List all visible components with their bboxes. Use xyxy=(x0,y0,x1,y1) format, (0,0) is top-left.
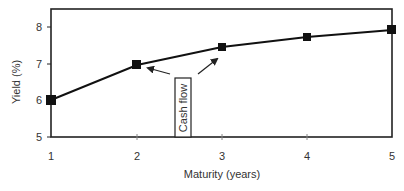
data-point xyxy=(132,60,141,69)
data-point xyxy=(303,33,311,41)
cash-flow-annotation: Cash flow xyxy=(148,59,217,137)
y-tick-label: 6 xyxy=(36,94,42,106)
data-point xyxy=(46,95,56,105)
x-tick-label: 2 xyxy=(134,150,140,162)
y-tick-label: 8 xyxy=(36,21,42,33)
plot-area xyxy=(51,9,392,137)
series-line xyxy=(51,30,392,100)
x-axis-label: Maturity (years) xyxy=(184,168,260,180)
x-tick-label: 5 xyxy=(389,150,395,162)
x-tick-label: 3 xyxy=(219,150,225,162)
cash-flow-label: Cash flow xyxy=(177,84,189,132)
y-tick-label: 7 xyxy=(36,58,42,70)
x-tick-label: 4 xyxy=(304,150,310,162)
data-point xyxy=(218,43,226,51)
arrow-icon xyxy=(198,59,217,74)
x-tick-label: 1 xyxy=(48,150,54,162)
y-tick-label: 5 xyxy=(36,131,42,143)
arrow-icon xyxy=(148,68,170,74)
data-point xyxy=(387,25,396,34)
series-markers xyxy=(46,25,396,105)
yield-curve-chart: 5 6 7 8 1 2 3 4 5 Maturity (years) Yield… xyxy=(0,0,404,191)
y-axis-label: Yield (%) xyxy=(10,60,22,104)
